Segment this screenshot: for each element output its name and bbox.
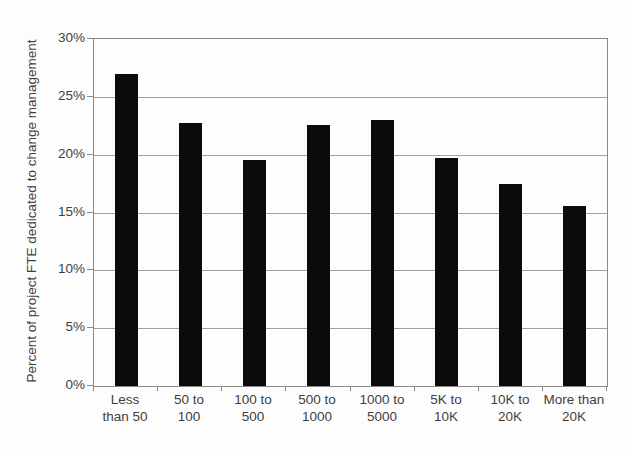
bar: [307, 125, 330, 386]
x-category-label: 100 to 500: [216, 391, 290, 425]
y-tick-mark: [87, 38, 94, 39]
y-tick-mark: [87, 96, 94, 97]
x-category-label: Less than 50: [88, 391, 162, 425]
y-tick-label: 30%: [39, 31, 85, 45]
plot-area: [93, 38, 608, 387]
bar: [179, 123, 202, 386]
y-axis-title-text: Percent of project FTE dedicated to chan…: [24, 40, 39, 383]
x-category-label: 5K to 10K: [409, 391, 483, 425]
bar: [499, 184, 522, 386]
y-tick-label: 5%: [39, 320, 85, 334]
y-tick-mark: [87, 212, 94, 213]
y-tick-label: 25%: [39, 89, 85, 103]
x-category-label: 1000 to 5000: [345, 391, 419, 425]
gridline: [94, 328, 607, 329]
gridline: [94, 270, 607, 271]
bar: [371, 120, 394, 386]
gridline: [94, 213, 607, 214]
x-category-label: 10K to 20K: [473, 391, 547, 425]
x-category-label: More than 20K: [537, 391, 611, 425]
y-tick-label: 20%: [39, 147, 85, 161]
y-tick-label: 15%: [39, 205, 85, 219]
bar-chart-figure: Percent of project FTE dedicated to chan…: [0, 0, 630, 453]
y-tick-label: 10%: [39, 262, 85, 276]
bar: [563, 206, 586, 386]
y-tick-mark: [87, 327, 94, 328]
y-tick-label: 0%: [39, 378, 85, 392]
x-category-label: 50 to 100: [152, 391, 226, 425]
x-category-label: 500 to 1000: [280, 391, 354, 425]
gridline: [94, 155, 607, 156]
bar: [243, 160, 266, 386]
bar: [115, 74, 138, 386]
y-tick-mark: [87, 269, 94, 270]
gridline: [94, 97, 607, 98]
bar: [435, 158, 458, 386]
y-tick-mark: [87, 154, 94, 155]
